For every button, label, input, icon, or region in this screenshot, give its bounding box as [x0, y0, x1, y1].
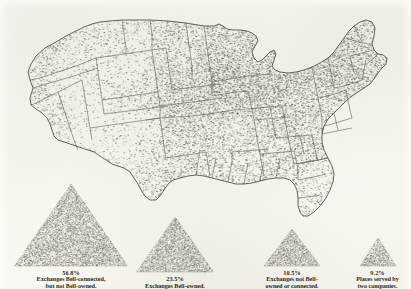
legend-item-1: 23.5% Exchanges Bell-owned. [113, 216, 237, 289]
legend-text-3: 9.2% Places served by two companies. [344, 270, 411, 289]
legend-description-1: Exchanges Bell-owned. [113, 283, 237, 289]
legend-description-2: Exchanges not Bell- owned or connected. [234, 276, 350, 289]
legend-text-1: 23.5% Exchanges Bell-owned. [113, 276, 237, 289]
legend-item-2: 10.5% Exchanges not Bell- owned or conne… [234, 228, 350, 289]
legend-triangle-holder-2 [234, 228, 350, 269]
legend-triangle-2 [260, 228, 324, 269]
legend: 56.8% Exchanges Bell-connected, but not … [0, 178, 411, 289]
legend-description-3: Places served by two companies. [344, 276, 411, 289]
legend-text-2: 10.5% Exchanges not Bell- owned or conne… [234, 270, 350, 289]
legend-triangle-1 [132, 216, 218, 275]
legend-triangle-holder-3 [344, 237, 411, 269]
legend-triangle-holder-1 [113, 216, 237, 275]
figure-root: 56.8% Exchanges Bell-connected, but not … [0, 0, 411, 289]
legend-triangle-3 [356, 237, 400, 269]
legend-item-3: 9.2% Places served by two companies. [344, 237, 411, 289]
